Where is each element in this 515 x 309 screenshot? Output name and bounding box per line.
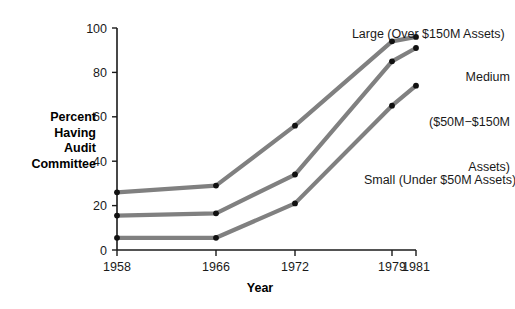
y-tick-label: 80: [93, 66, 107, 80]
x-tick-label: 1981: [402, 260, 430, 274]
y-axis-title: Percent Having Audit Committee: [8, 110, 96, 172]
data-point: [114, 189, 120, 195]
y-tick-label: 100: [86, 22, 107, 36]
data-point: [389, 58, 395, 64]
data-point: [213, 235, 219, 241]
data-point: [292, 172, 298, 178]
y-axis-title-line-4: Committee: [8, 157, 96, 173]
x-tick-label: 1958: [103, 260, 131, 274]
y-axis-title-line-2: Having: [8, 126, 96, 142]
x-tick-label: 1972: [281, 260, 309, 274]
series-label-medium-line-2: ($50M−$150M: [418, 115, 510, 130]
series-label-medium-line-1: Medium: [418, 70, 510, 85]
y-axis-title-line-1: Percent: [8, 110, 96, 126]
y-tick-label: 0: [100, 244, 107, 258]
series-label-small: Small (Under $50M Assets): [350, 158, 515, 203]
chart-figure: 020406080100 19581966197219791981 Percen…: [0, 0, 515, 309]
y-axis-title-line-3: Audit: [8, 141, 96, 157]
data-point: [213, 210, 219, 216]
series-label-small-text: Small (Under $50M Assets): [364, 173, 515, 187]
data-point: [389, 103, 395, 109]
series-label-large-text: Large (Over $150M Assets): [352, 27, 505, 41]
x-axis-title: Year: [190, 281, 330, 295]
data-point: [213, 183, 219, 189]
data-point: [114, 235, 120, 241]
y-tick-label: 20: [93, 199, 107, 213]
data-point: [292, 123, 298, 129]
data-series-group: [114, 34, 419, 241]
x-tick-label: 1966: [202, 260, 230, 274]
x-axis-ticks: 19581966197219791981: [103, 250, 430, 274]
data-point: [114, 213, 120, 219]
data-point: [292, 200, 298, 206]
